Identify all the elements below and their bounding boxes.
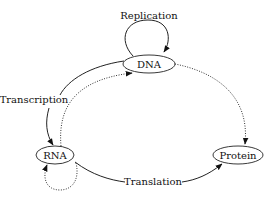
central-dogma-diagram: DNA RNA Protein Replication Transcriptio… [0, 0, 273, 200]
node-dna-label: DNA [137, 59, 162, 70]
edge-reverse-transcription [61, 73, 132, 146]
label-translation: Translation [124, 176, 182, 187]
diagram-svg: DNA RNA Protein Replication Transcriptio… [0, 0, 273, 200]
node-protein[interactable]: Protein [213, 146, 263, 164]
edge-rna-replication [45, 163, 77, 190]
node-rna-label: RNA [43, 150, 67, 161]
edge-direct-translation [175, 64, 245, 144]
node-rna[interactable]: RNA [36, 146, 74, 164]
label-replication: Replication [120, 10, 178, 21]
node-protein-label: Protein [219, 150, 257, 161]
node-dna[interactable]: DNA [123, 55, 175, 73]
label-transcription: Transcription [0, 94, 69, 105]
edge-replication [125, 20, 168, 56]
